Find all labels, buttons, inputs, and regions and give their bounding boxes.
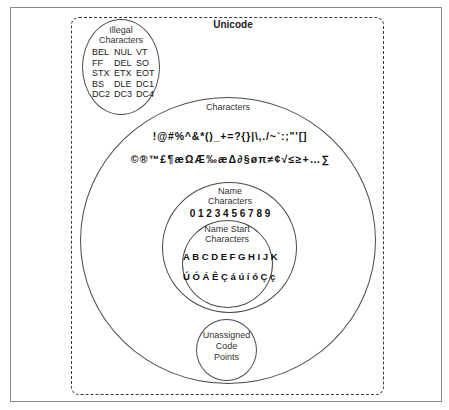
name-start-letters-row2: Ú Ó Á Ê Ç á ú í ó Ç ç [183,271,271,282]
name-characters-digits: 0 1 2 3 4 5 6 7 8 9 [180,208,280,219]
name-start-title-line1: Name Start [197,224,257,234]
code-nul: NUL [114,47,136,58]
code-dle: DLE [114,79,136,90]
code-etx: ETX [114,68,136,79]
code-ff: FF [92,58,114,69]
code-dc1: DC1 [136,79,158,90]
code-eot: EOT [136,68,158,79]
code-dc3: DC3 [114,89,136,100]
name-characters-title-line1: Name [200,186,260,196]
name-characters-title-line2: Characters [200,196,260,206]
unicode-title: Unicode [203,20,263,30]
code-stx: STX [92,68,114,79]
unassigned-title-line3: Points [196,352,257,362]
code-dc4: DC4 [136,89,158,100]
characters-symbols-row2: ©®™£¶æΩÆ‰æΔ∂§øπ≠¢√≤≥+…∑ [118,153,343,165]
characters-title: Characters [188,102,268,112]
code-bs: BS [92,79,114,90]
unassigned-title-line2: Code [196,341,257,351]
code-so: SO [136,58,158,69]
characters-symbols-row1: !@#%^&*()_+=?{}|\,./~`:;"'[] [125,130,335,142]
illegal-codes-grid: BEL NUL VT FF DEL SO STX ETX EOT BS DLE … [92,47,158,100]
code-vt: VT [136,47,158,58]
name-start-letters-row1: A B C D E F G H I J K [183,251,271,262]
code-bel: BEL [92,47,114,58]
code-dc2: DC2 [92,89,114,100]
illegal-title-line1: Illegal [91,25,151,35]
code-del: DEL [114,58,136,69]
name-start-title-line2: Characters [197,234,257,244]
illegal-title-line2: Characters [91,35,151,45]
unassigned-title-line1: Unassigned [196,330,257,340]
